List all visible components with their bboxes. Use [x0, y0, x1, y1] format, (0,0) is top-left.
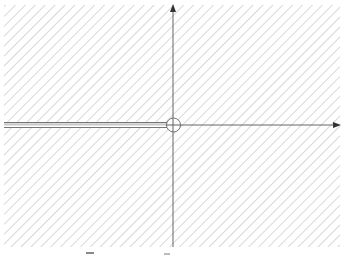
branch-cut-fill: [4, 123, 167, 125]
caption-mark: [86, 252, 94, 254]
complex-plane-diagram: [0, 0, 345, 255]
